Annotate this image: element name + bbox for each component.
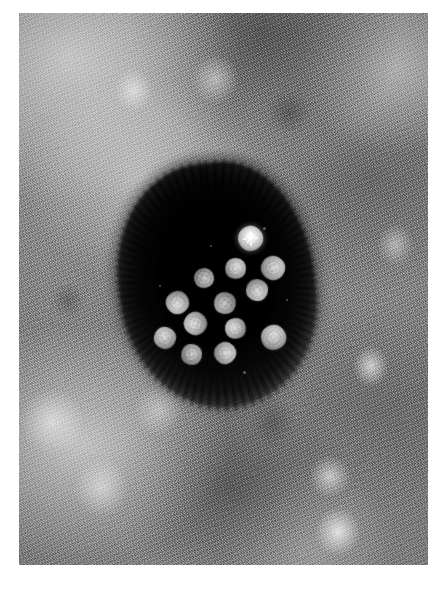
electron-micrograph-plate: [19, 13, 428, 565]
caption-marks: [19, 571, 428, 585]
micrograph-page: [0, 0, 436, 589]
plate-vignette: [19, 13, 428, 565]
